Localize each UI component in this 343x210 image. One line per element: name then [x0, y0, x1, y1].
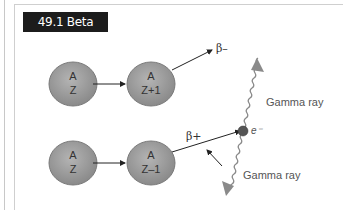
mass-number-label: A: [69, 149, 77, 161]
beta-minus-arrow: [172, 50, 212, 70]
mass-number-label: A: [147, 70, 155, 82]
electron-dot: [238, 126, 248, 136]
mass-number-label: A: [147, 149, 155, 161]
gamma-ray-label-lower: Gamma ray: [243, 169, 301, 181]
row-beta-plus: A Z A Z–1 β+: [49, 130, 240, 185]
annihilation-pointer-arrow: [207, 150, 222, 166]
beta-minus-label: β–: [216, 42, 228, 55]
beta-plus-label: β+: [186, 130, 202, 143]
gamma-ray-up-arrowhead-icon: [251, 58, 264, 72]
gamma-ray-down: [230, 134, 242, 189]
atomic-number-label: Z: [70, 84, 77, 96]
gamma-ray-label-upper: Gamma ray: [266, 96, 324, 108]
annihilation: e⁻ Gamma ray Gamma ray: [222, 58, 324, 196]
atomic-number-label: Z+1: [141, 84, 160, 96]
beta-decay-diagram: A Z A Z+1 β– A Z A Z–1 β+ e⁻ Gamma ray G…: [0, 0, 343, 210]
atomic-number-label: Z: [70, 163, 77, 175]
positron-path: [172, 131, 240, 152]
row-beta-minus: A Z A Z+1 β–: [49, 42, 228, 106]
mass-number-label: A: [69, 70, 77, 82]
atomic-number-label: Z–1: [142, 163, 161, 175]
electron-label: e⁻: [251, 125, 263, 136]
